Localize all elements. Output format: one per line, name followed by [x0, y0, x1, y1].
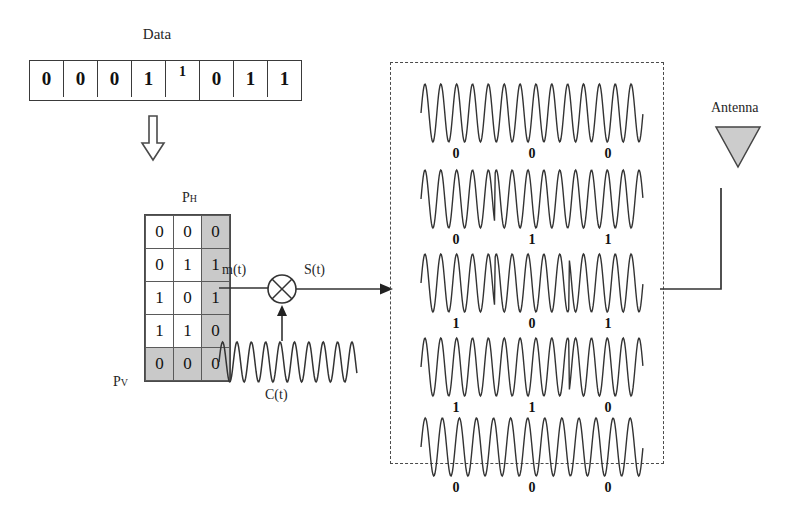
waveform-trace: [421, 84, 643, 142]
waveform-bit-label: 0: [494, 480, 570, 496]
waveform-bit-labels: 110: [418, 400, 646, 416]
waveform-bit-label: 1: [418, 400, 494, 416]
waveform-trace: [421, 418, 643, 476]
waveform-bit-label: 0: [570, 400, 646, 416]
waveform-bit-label: 1: [570, 232, 646, 248]
waveform-bit-labels: 011: [418, 232, 646, 248]
waveform-bit-label: 0: [494, 146, 570, 162]
waveform-bit-label: 0: [570, 146, 646, 162]
transmitted-waveform-row: [418, 336, 646, 398]
transmitted-waveform-row: [418, 252, 646, 314]
antenna-feed-line: [660, 186, 730, 300]
waveform-trace: [421, 254, 643, 312]
waveform-trace: [421, 170, 643, 228]
transmitted-waveform-row: [418, 416, 646, 478]
waveform-bit-label: 1: [418, 316, 494, 332]
antenna-label: Antenna: [711, 100, 758, 116]
transmitted-waveform-row: [418, 168, 646, 230]
waveform-bit-label: 1: [494, 232, 570, 248]
transmitted-waveform-row: [418, 82, 646, 144]
waveform-bit-labels: 000: [418, 146, 646, 162]
waveform-bit-label: 1: [494, 400, 570, 416]
waveform-bit-labels: 000: [418, 480, 646, 496]
antenna-icon: [714, 125, 762, 175]
waveform-bit-label: 0: [418, 146, 494, 162]
waveform-trace: [421, 338, 643, 396]
diagram-canvas: Data 00011011 PH PV 000011101110000 m(t): [0, 0, 787, 512]
waveform-bit-label: 0: [418, 480, 494, 496]
waveform-bit-label: 0: [494, 316, 570, 332]
waveform-bit-label: 0: [570, 480, 646, 496]
waveform-bit-labels: 101: [418, 316, 646, 332]
waveform-bit-label: 0: [418, 232, 494, 248]
waveform-bit-label: 1: [570, 316, 646, 332]
